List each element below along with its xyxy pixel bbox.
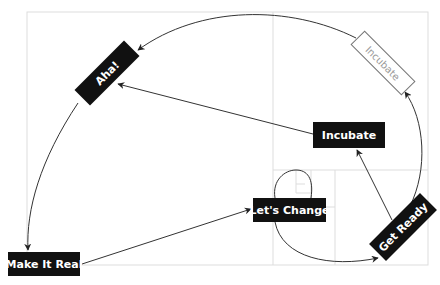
node-incubate[interactable]: Incubate: [313, 122, 385, 148]
edge-getready-incubate: [357, 150, 392, 220]
spiral-inner-loop: [275, 170, 312, 198]
node-lets-change[interactable]: Let's Change: [253, 198, 326, 222]
node-make-it-real[interactable]: Make It Real: [8, 252, 80, 276]
edge-ghost-aha: [138, 15, 356, 50]
edge-incubate-aha: [118, 84, 313, 134]
edge-aha-makeitreal: [28, 103, 78, 250]
edge-getready-ghost: [405, 92, 422, 206]
edge-letschange-getready: [275, 222, 378, 262]
diagram-canvas: Let's Change Get Ready Incubate Aha! Mak…: [0, 0, 440, 285]
straight-edges: [82, 84, 392, 264]
edge-makeitreal-letschange: [82, 209, 251, 264]
